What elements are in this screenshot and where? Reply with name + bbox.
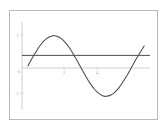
axes-group	[22, 22, 150, 110]
tick-marks-group	[21, 35, 98, 93]
plot-canvas: 1 0 -1 2 4	[0, 0, 168, 131]
data-series-group	[22, 36, 150, 97]
x-tick-label-2: 2	[63, 70, 65, 75]
y-tick-label-0: 0	[18, 69, 20, 74]
sine-curve	[28, 36, 144, 97]
x-tick-label-4: 4	[96, 70, 99, 75]
tick-labels-group: 1 0 -1 2 4	[15, 33, 99, 96]
y-tick-label-1: 1	[16, 33, 18, 38]
y-tick-label-neg1: -1	[15, 91, 19, 96]
figure-root: 1 0 -1 2 4	[0, 0, 168, 131]
